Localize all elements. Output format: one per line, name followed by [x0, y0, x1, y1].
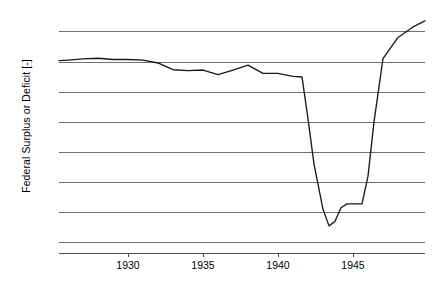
x-tick-label: 1940: [266, 259, 289, 271]
x-tick-mark: [128, 253, 129, 257]
x-tick-mark: [203, 253, 204, 257]
chart-figure: Federal Surplus or Deficit [-] 10k0k−10k…: [0, 0, 442, 285]
series-canvas: [59, 20, 425, 253]
x-tick-mark: [353, 253, 354, 257]
plot-area: [59, 20, 425, 253]
x-tick-label: 1935: [191, 259, 214, 271]
x-axis-line: [59, 253, 425, 254]
x-tick-label: 1930: [116, 259, 139, 271]
x-tick-mark: [278, 253, 279, 257]
data-line-federal-surplus-or-deficit: [59, 21, 425, 226]
y-axis-label: Federal Surplus or Deficit [-]: [20, 16, 32, 236]
x-tick-label: 1945: [341, 259, 364, 271]
